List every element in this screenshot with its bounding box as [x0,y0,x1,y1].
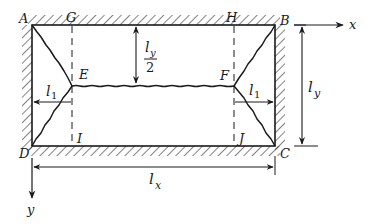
label-h: H [225,10,238,25]
label-a: A [18,11,28,26]
ly-label: l y [308,78,321,100]
yield-line-ef [72,86,234,87]
l1-left-main: l [46,83,50,99]
ly-sub: y [313,87,321,100]
l1-right-main: l [249,82,253,98]
label-i: I [76,131,83,146]
y-axis-label: y [26,202,35,217]
label-f: F [219,68,230,83]
right-support-hatch [275,25,285,150]
ly-half-numerator-sub: y [149,47,156,58]
lx-main: l [149,170,154,188]
ly-half-denominator: 2 [146,60,154,75]
lx-sub: x [155,179,162,192]
label-j: J [236,131,245,146]
lx-label: l x [149,170,162,192]
l1-right-label: l 1 [249,82,260,100]
ly-half-label: l y 2 [144,39,157,75]
ly-half-numerator: l [145,39,149,55]
yield-lines [32,25,275,146]
bottom-support-hatch [28,146,280,156]
label-g: G [66,10,76,25]
yield-line-ae [32,25,72,86]
label-d: D [18,146,30,161]
l1-right-sub: 1 [254,89,260,100]
l1-left-sub: 1 [51,90,57,101]
label-b: B [279,13,290,28]
label-e: E [78,67,89,82]
l1-left-label: l 1 [46,83,57,101]
yield-line-bf [234,25,275,86]
ly-main: l [308,78,313,96]
left-support-hatch [22,25,32,150]
x-axis-label: x [349,17,357,32]
label-c: C [280,146,290,161]
yield-line-diagram: A G H B E F I J D C l y 2 l 1 l 1 l y x … [0,0,373,224]
